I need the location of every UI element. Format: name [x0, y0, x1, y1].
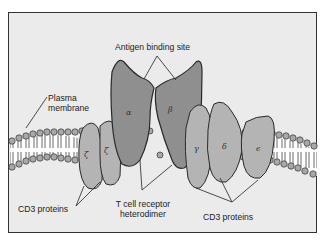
label-antigen-binding-site: Antigen binding site [115, 42, 190, 52]
alpha-chain [111, 60, 154, 166]
beta-label: β [168, 105, 173, 114]
label-tcr-heterodimer-2: heterodimer [110, 209, 176, 219]
label-plasma-membrane-2: membrane [48, 103, 89, 113]
alpha-label: α [126, 108, 131, 117]
zeta-label-1: ζ [84, 150, 88, 159]
label-cd3-proteins-left: CD3 proteins [18, 204, 68, 214]
zeta-label-2: ζ [104, 146, 108, 155]
zeta-chain-1 [79, 123, 103, 189]
label-plasma-membrane-1: Plasma [48, 93, 77, 103]
label-cd3-proteins-right: CD3 proteins [203, 212, 253, 222]
gamma-label: γ [194, 144, 199, 153]
epsilon-label: ϵ [256, 144, 260, 153]
delta-label: δ [222, 142, 227, 151]
label-tcr-heterodimer-1: T cell receptor [110, 199, 176, 209]
